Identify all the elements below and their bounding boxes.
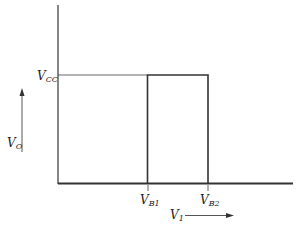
vo-arrow-head-icon [20,88,25,96]
v1-arrow-head-icon [226,213,234,218]
diagram-canvas: VCC VO VB1 VB2 V1 [0,0,296,228]
vb1-label: VB1 [140,193,160,208]
vo-label: VO [7,136,23,151]
output-pulse [148,75,209,183]
vcc-label: VCC [37,69,58,84]
vb2-label: VB2 [200,193,220,208]
v1-label: V1 [170,208,184,223]
transfer-characteristic-diagram: VCC VO VB1 VB2 V1 [0,0,296,228]
